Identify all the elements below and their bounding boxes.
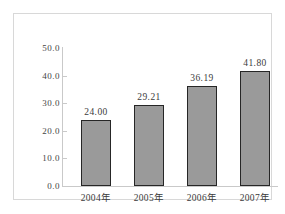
y-tick-label-0: 0.0	[16, 181, 60, 191]
y-tick-label-40: 40.0	[16, 71, 60, 81]
x-label-2006: 2006年	[173, 190, 231, 204]
x-label-2004: 2004年	[67, 190, 125, 204]
x-label-2005: 2005年	[120, 190, 178, 204]
y-tick-label-50: 50.0	[16, 43, 60, 53]
y-tick-label-10: 10.0	[16, 153, 60, 163]
x-axis-category-labels: 2004年 2005年 2006年 2007年	[62, 14, 278, 201]
y-tick-label-30: 30.0	[16, 98, 60, 108]
x-label-2007: 2007年	[226, 190, 284, 204]
chart-frame: 50.0 40.0 30.0 20.0 10.0 0.0 24.00 29.21…	[13, 13, 272, 200]
y-tick-label-20: 20.0	[16, 126, 60, 136]
y-axis-tick-labels: 50.0 40.0 30.0 20.0 10.0 0.0	[14, 14, 60, 201]
